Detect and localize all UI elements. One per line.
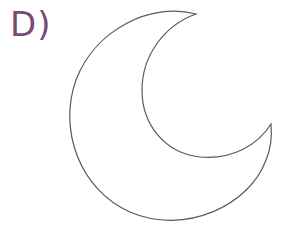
crescent-moon-icon <box>0 0 289 231</box>
